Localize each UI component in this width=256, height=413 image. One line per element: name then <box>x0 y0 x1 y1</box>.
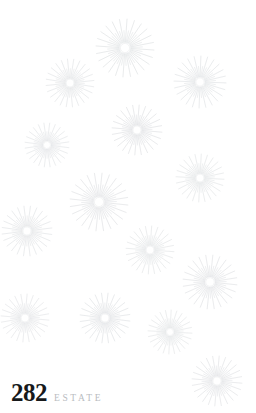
starburst-icon <box>173 55 227 109</box>
starburst-icon <box>22 120 71 169</box>
starburst-icon <box>0 292 51 344</box>
starburst-decoration-layer <box>0 0 256 413</box>
starburst-icon <box>0 203 55 259</box>
starburst-icon <box>67 170 131 234</box>
starburst-icon <box>110 103 164 157</box>
brand-number: 282 <box>11 380 47 405</box>
starburst-icon <box>190 354 244 408</box>
starburst-icon <box>43 56 98 111</box>
starburst-icon <box>175 153 225 203</box>
starburst-icon <box>147 309 193 355</box>
brand-wordmark: 282 ESTATE <box>11 380 103 405</box>
brand-word: ESTATE <box>54 394 103 404</box>
starburst-icon <box>124 224 175 275</box>
starburst-icon <box>180 252 239 311</box>
starburst-icon <box>94 17 156 79</box>
poster-canvas: 282 ESTATE <box>0 0 256 413</box>
starburst-icon <box>77 290 133 346</box>
